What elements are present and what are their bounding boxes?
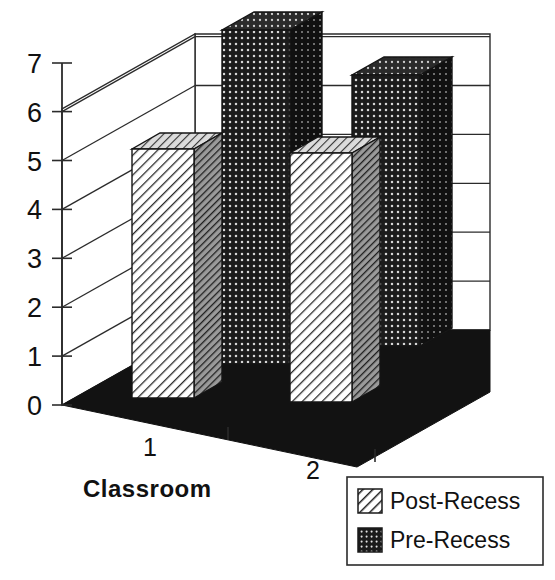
- legend-swatch-post-recess: [358, 489, 382, 513]
- legend-label-post-recess: Post-Recess: [390, 488, 520, 514]
- y-tick-label-6: 6: [27, 98, 42, 128]
- chart-canvas: 7 6 5 4 3 2 1 0 1 2 Classroom Post-Reces…: [0, 0, 555, 580]
- y-tick-label-2: 2: [27, 293, 42, 323]
- legend-swatch-pre-recess: [358, 528, 382, 552]
- bar-post-recess-1: [132, 133, 222, 398]
- x-category-label-1: 1: [143, 433, 157, 461]
- y-tick-label-5: 5: [27, 147, 42, 177]
- x-category-label-2: 2: [306, 456, 320, 484]
- legend-label-pre-recess: Pre-Recess: [390, 527, 510, 553]
- y-tick-label-3: 3: [27, 244, 42, 274]
- y-tick-label-1: 1: [27, 342, 42, 372]
- y-tick-label-4: 4: [27, 195, 42, 225]
- bar-chart-3d: 7 6 5 4 3 2 1 0 1 2 Classroom Post-Reces…: [0, 0, 555, 580]
- x-axis-title: Classroom: [83, 475, 212, 502]
- legend-entry-pre-recess[interactable]: Pre-Recess: [358, 527, 510, 553]
- legend-entry-post-recess[interactable]: Post-Recess: [358, 488, 520, 514]
- legend: Post-Recess Pre-Recess: [347, 477, 543, 565]
- y-tick-label-0: 0: [27, 391, 42, 421]
- bar-post-recess-2: [290, 137, 380, 402]
- y-tick-label-7: 7: [27, 49, 42, 79]
